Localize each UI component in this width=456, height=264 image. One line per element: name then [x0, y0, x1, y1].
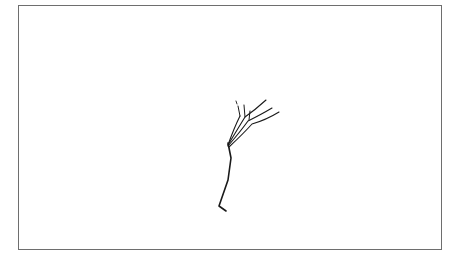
tick-line	[244, 105, 245, 117]
branch-line	[228, 116, 240, 145]
branch-line	[229, 112, 279, 147]
sketch-drawing	[0, 0, 456, 264]
tick-line	[238, 106, 240, 116]
tick-line	[249, 111, 250, 120]
tick-line	[236, 101, 237, 104]
stem-line	[219, 143, 231, 211]
